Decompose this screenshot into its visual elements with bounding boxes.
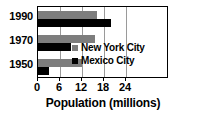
y-axis-tick-label: 1970: [0, 35, 33, 46]
legend-swatch-icon-new-york-city: [72, 45, 78, 51]
y-axis-tick-label: 1990: [0, 11, 33, 22]
bar-mexico-city-1990: [38, 19, 111, 27]
legend-label: Mexico City: [81, 56, 134, 66]
chart-legend: New York City Mexico City: [72, 42, 145, 68]
bar-new-york-city-1990: [38, 11, 97, 19]
bar-mexico-city-1970: [38, 43, 71, 51]
bar-chart: 1990 1970 1950 New York City Mexico City: [0, 0, 206, 115]
y-axis-category-labels: 1990 1970 1950: [0, 6, 36, 78]
legend-item-mexico-city: Mexico City: [72, 55, 145, 67]
bar-mexico-city-1950: [38, 67, 49, 75]
y-axis-tick-label: 1950: [0, 59, 33, 70]
x-axis-labels: 0 6 12 18 24: [37, 81, 168, 95]
legend-label: New York City: [81, 43, 145, 53]
x-axis-title: Population (millions): [0, 96, 206, 110]
legend-item-new-york-city: New York City: [72, 42, 145, 54]
legend-swatch-icon-mexico-city: [72, 58, 78, 64]
x-axis-tick-label: 24: [112, 81, 138, 93]
